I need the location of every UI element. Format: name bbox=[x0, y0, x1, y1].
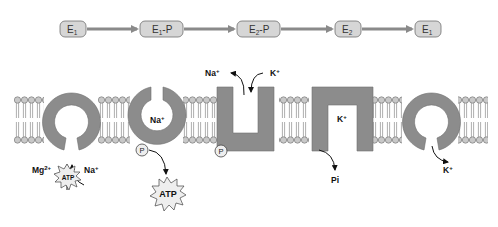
reaction-cycle: E1 E1-P E2-P E2 E1 bbox=[60, 21, 441, 37]
diagram-canvas: E1 E1-P E2-P E2 E1 bbox=[0, 0, 498, 227]
state-box-e1-p: E1-P bbox=[140, 21, 183, 37]
atp-release-arrow bbox=[149, 150, 166, 174]
phosphate-badge: P bbox=[215, 145, 227, 157]
pump-protein-ring bbox=[43, 93, 101, 150]
na-bound-label: Na+ bbox=[150, 115, 165, 125]
na-out-label: Na+ bbox=[205, 68, 220, 78]
svg-text:ATP: ATP bbox=[62, 174, 75, 181]
pump-protein-u-open-top bbox=[217, 87, 274, 151]
pump-stage-5: K+ bbox=[403, 93, 461, 175]
k-in-label: K+ bbox=[270, 68, 280, 78]
svg-text:ATP: ATP bbox=[159, 189, 176, 199]
pi-release-arrow bbox=[319, 150, 335, 170]
atp-burst-large: ATP bbox=[150, 177, 186, 211]
atp-burst-small: ATP bbox=[54, 164, 81, 190]
k-bound-label: K+ bbox=[337, 114, 347, 124]
pump-stage-2: Na+ P ATP bbox=[128, 87, 186, 211]
pump-protein-ring bbox=[403, 93, 461, 150]
state-box-e1: E1 bbox=[60, 21, 86, 37]
svg-text:E2-P: E2-P bbox=[249, 24, 270, 36]
phosphate-badge: P bbox=[136, 144, 148, 156]
na-k-pump-diagram: E1 E1-P E2-P E2 E1 bbox=[0, 0, 498, 227]
svg-text:P: P bbox=[218, 147, 223, 156]
pi-label: Pi bbox=[331, 175, 339, 185]
na-label: Na+ bbox=[84, 165, 99, 175]
svg-text:E1-P: E1-P bbox=[152, 24, 173, 36]
state-box-e2: E2 bbox=[335, 21, 361, 37]
mg-label: Mg2+ bbox=[32, 165, 52, 175]
pump-stage-4: K+ Pi bbox=[312, 87, 373, 185]
svg-text:P: P bbox=[139, 146, 144, 155]
state-box-e1-final: E1 bbox=[415, 21, 441, 37]
k-out-label: K+ bbox=[443, 165, 453, 175]
state-box-e2-p: E2-P bbox=[237, 21, 280, 37]
